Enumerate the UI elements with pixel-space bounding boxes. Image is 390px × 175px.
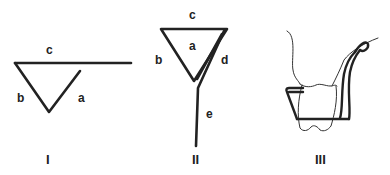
figure-i-label-c: c — [46, 43, 53, 57]
figure-i: c b a I — [15, 43, 131, 167]
figure-iii-caption: III — [315, 152, 326, 167]
figure-ii-label-d: d — [221, 53, 228, 67]
figure-ii: c a b d e II — [155, 8, 228, 167]
figure-ii-label-a: a — [189, 39, 196, 53]
figure-ii-caption: II — [192, 152, 199, 167]
figure-ii-label-e: e — [206, 107, 213, 121]
figure-i-caption: I — [46, 152, 50, 167]
figure-iii: III — [286, 31, 378, 167]
figure-iii-tooth-outline — [287, 31, 378, 131]
figure-ii-label-b: b — [155, 53, 162, 67]
figure-ii-label-c: c — [189, 8, 196, 22]
diagram-canvas: c b a I c a b d e II — [0, 0, 390, 175]
figure-i-label-b: b — [17, 91, 24, 105]
figure-i-wire — [15, 63, 131, 112]
figure-i-label-a: a — [78, 91, 85, 105]
